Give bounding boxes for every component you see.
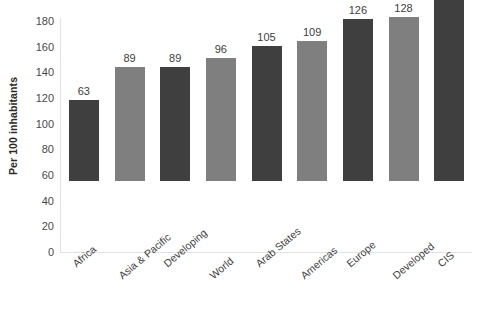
y-axis-title: Per 100 inhabitants — [2, 0, 24, 252]
bar — [252, 46, 282, 181]
y-axis-tick: 100 — [36, 118, 54, 130]
y-axis-tick: 160 — [36, 41, 54, 53]
bar-value-label: 96 — [215, 43, 227, 55]
bar — [389, 17, 419, 181]
y-axis-tick: 0 — [48, 246, 54, 258]
bar — [343, 19, 373, 181]
bar — [115, 67, 145, 181]
bar — [69, 100, 99, 181]
bar-group: 89 — [160, 47, 190, 181]
bar-value-label: 109 — [303, 26, 321, 38]
bar-group: 126 — [343, 0, 373, 181]
bar-value-label: 105 — [257, 31, 275, 43]
plot-area: 63898996105109126128170 — [61, 0, 472, 252]
bar-group: 105 — [252, 26, 282, 181]
y-axis-tick: 40 — [42, 195, 54, 207]
bar-group: 128 — [389, 0, 419, 181]
y-axis-title-text: Per 100 inhabitants — [7, 77, 19, 175]
bar-group: 63 — [69, 80, 99, 181]
bar — [206, 58, 236, 181]
y-axis-tick: 180 — [36, 15, 54, 27]
bar-value-label: 89 — [169, 52, 181, 64]
bar — [297, 41, 327, 181]
bar — [434, 0, 464, 181]
y-axis-tick: 80 — [42, 143, 54, 155]
bar-chart: Per 100 inhabitants 18016014012010080604… — [0, 0, 477, 323]
bar-value-label: 63 — [78, 85, 90, 97]
bar-group: 89 — [115, 47, 145, 181]
bar-value-label: 89 — [123, 52, 135, 64]
x-axis-category-label: World — [207, 254, 236, 281]
bar-group: 170 — [434, 0, 464, 181]
bar-group: 109 — [297, 21, 327, 181]
y-axis-tick: 140 — [36, 66, 54, 78]
y-axis-tick: 120 — [36, 92, 54, 104]
bar — [160, 67, 190, 181]
y-axis-tick-labels: 180160140120100806040200 — [24, 0, 58, 323]
bar-group: 96 — [206, 38, 236, 181]
bar-value-label: 128 — [394, 2, 412, 14]
y-axis-tick: 60 — [42, 169, 54, 181]
x-axis-category-label: CIS — [435, 249, 456, 269]
bar-value-label: 126 — [349, 4, 367, 16]
y-axis-tick: 20 — [42, 220, 54, 232]
x-axis-category-labels: AfricaAsia & PacificDevelopingWorldArab … — [61, 252, 472, 323]
